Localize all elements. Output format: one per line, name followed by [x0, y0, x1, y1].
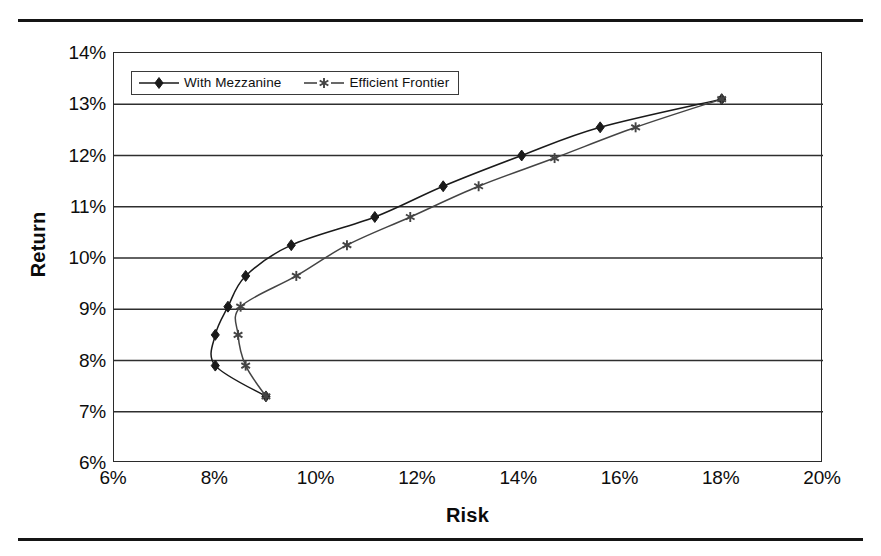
x-tick-label: 10% [276, 468, 356, 487]
x-tick-label: 8% [174, 468, 254, 487]
chart-page: 6%7%8%9%10%11%12%13%14% Return With Mezz… [0, 0, 881, 556]
chart-legend: With MezzanineEfficient Frontier [131, 71, 459, 95]
gridlines [114, 104, 823, 412]
y-axis-title: Return [27, 185, 50, 305]
y-tick-label: 11% [48, 196, 106, 215]
x-tick-label: 20% [782, 468, 862, 487]
y-tick-label: 12% [48, 145, 106, 164]
legend-item-efficient-frontier[interactable]: Efficient Frontier [303, 76, 449, 90]
plot-svg [114, 53, 823, 463]
y-tick-label: 9% [48, 299, 106, 318]
x-tick-label: 16% [579, 468, 659, 487]
star-marker-icon [303, 76, 345, 90]
plot-area: With MezzanineEfficient Frontier [113, 52, 822, 462]
efficient-frontier-chart: 6%7%8%9%10%11%12%13%14% Return With Mezz… [0, 28, 881, 528]
y-tick-label: 10% [48, 248, 106, 267]
series-with-mezzanine [211, 94, 726, 402]
legend-label: Efficient Frontier [349, 76, 449, 90]
diamond-marker-icon [138, 76, 180, 90]
series-efficient-frontier [234, 94, 726, 401]
y-tick-label: 13% [48, 94, 106, 113]
legend-item-with-mezzanine[interactable]: With Mezzanine [138, 76, 281, 90]
y-tick-label: 7% [48, 401, 106, 420]
x-tick-label: 14% [478, 468, 558, 487]
x-tick-label: 12% [377, 468, 457, 487]
legend-label: With Mezzanine [184, 76, 281, 90]
y-tick-label: 14% [48, 43, 106, 62]
y-tick-label: 8% [48, 350, 106, 369]
y-axis-tick-labels: 6%7%8%9%10%11%12%13%14% [46, 52, 106, 462]
x-tick-label: 6% [73, 468, 153, 487]
x-axis-title: Risk [113, 504, 822, 527]
top-horizontal-rule [18, 19, 863, 22]
bottom-horizontal-rule [18, 538, 863, 541]
x-axis-tick-labels: 6%8%10%12%14%16%18%20% [113, 468, 873, 496]
x-tick-label: 18% [681, 468, 761, 487]
